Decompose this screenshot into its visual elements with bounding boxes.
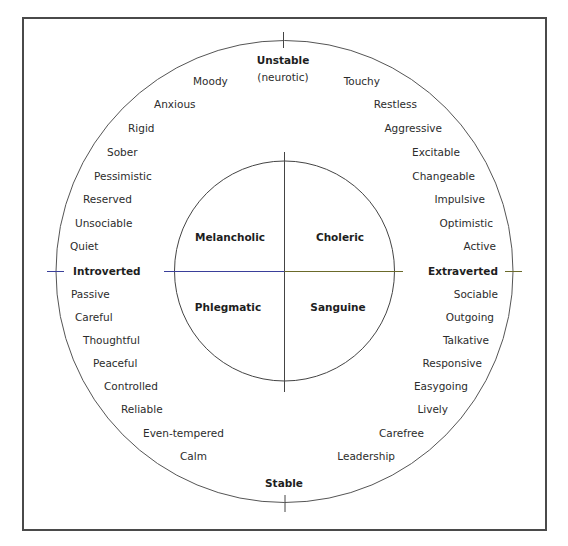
- trait-label: Easygoing: [414, 380, 468, 392]
- quadrant-choleric: Choleric: [316, 231, 364, 243]
- axis-label-stable: Stable: [265, 477, 303, 489]
- trait-label: Anxious: [154, 98, 196, 110]
- trait-label: Active: [464, 240, 496, 252]
- trait-label: Sober: [107, 146, 138, 158]
- trait-label: Quiet: [70, 240, 98, 252]
- axis-label-extraverted: Extraverted: [428, 265, 498, 277]
- trait-label: Reliable: [121, 403, 163, 415]
- trait-label: Outgoing: [446, 311, 494, 323]
- trait-label: Passive: [71, 288, 110, 300]
- trait-label: Changeable: [412, 170, 475, 182]
- trait-label: Calm: [180, 450, 207, 462]
- trait-label: Impulsive: [434, 193, 485, 205]
- trait-label: Talkative: [443, 334, 489, 346]
- trait-label: Aggressive: [384, 122, 442, 134]
- quadrant-sanguine: Sanguine: [310, 301, 365, 313]
- axis-label-unstable: Unstable: [257, 54, 310, 66]
- trait-label: Excitable: [412, 146, 460, 158]
- axis-label-introverted: Introverted: [73, 265, 141, 277]
- trait-label: Lively: [417, 403, 448, 415]
- trait-label: Even-tempered: [143, 427, 224, 439]
- trait-label: Restless: [374, 98, 417, 110]
- quadrant-melancholic: Melancholic: [195, 231, 265, 243]
- axis-label-neurotic: (neurotic): [257, 71, 308, 83]
- trait-label: Controlled: [104, 380, 158, 392]
- trait-label: Optimistic: [440, 217, 493, 229]
- trait-label: Leadership: [337, 450, 395, 462]
- trait-label: Reserved: [83, 193, 132, 205]
- trait-label: Unsociable: [75, 217, 132, 229]
- trait-label: Thoughtful: [83, 334, 140, 346]
- trait-label: Sociable: [454, 288, 498, 300]
- trait-label: Pessimistic: [94, 170, 152, 182]
- trait-label: Careful: [75, 311, 113, 323]
- trait-label: Touchy: [344, 75, 380, 87]
- trait-label: Responsive: [422, 357, 482, 369]
- trait-label: Carefree: [379, 427, 424, 439]
- quadrant-phlegmatic: Phlegmatic: [195, 301, 261, 313]
- trait-label: Moody: [193, 75, 228, 87]
- trait-label: Rigid: [128, 122, 154, 134]
- trait-label: Peaceful: [93, 357, 137, 369]
